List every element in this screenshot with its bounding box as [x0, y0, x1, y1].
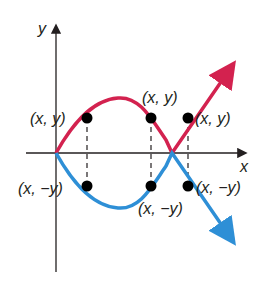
- point-label: (x, −y): [196, 179, 241, 196]
- point-label: (x, −y): [18, 180, 63, 197]
- y-axis-label: y: [37, 20, 47, 37]
- reflected-curve: [56, 153, 232, 240]
- reflection-diagram: y x (x, y) (x, y) (x, y) (x, −y) (x, −y)…: [0, 0, 278, 286]
- x-axis-label: x: [239, 158, 249, 175]
- point-label: (x, y): [30, 110, 66, 127]
- point-label: (x, y): [195, 110, 231, 127]
- points: [82, 113, 194, 192]
- point-label: (x, y): [142, 89, 178, 106]
- point-label: (x, −y): [138, 200, 183, 217]
